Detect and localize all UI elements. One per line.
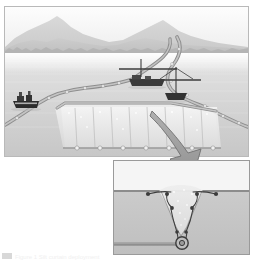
inset-detail-panel bbox=[113, 160, 250, 255]
figure-root: Figure 1 Silt curtain deployment bbox=[0, 0, 261, 263]
figure-caption: Figure 1 Silt curtain deployment bbox=[15, 252, 99, 262]
inset-detail-artwork bbox=[114, 161, 249, 254]
water-haze bbox=[5, 53, 248, 73]
caption-swatch bbox=[2, 253, 12, 259]
